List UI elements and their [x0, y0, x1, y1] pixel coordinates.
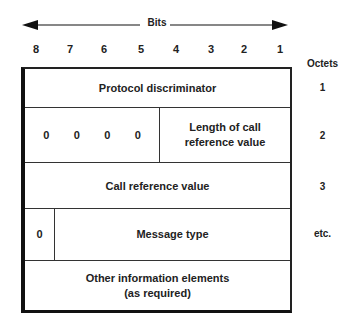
- bit-8-cell: 0: [25, 209, 55, 260]
- bit-7-value: 0: [74, 128, 80, 143]
- call-reference-value-label: Call reference value: [106, 180, 210, 192]
- protocol-discriminator-label: Protocol discriminator: [99, 82, 216, 94]
- bits-label: Bits: [142, 17, 172, 28]
- zero-bits-cell: 0 0 0 0: [25, 108, 160, 162]
- other-elements-line1: Other information elements: [86, 271, 230, 286]
- bit-8-value: 0: [43, 128, 49, 143]
- message-type-cell: Message type: [55, 209, 290, 260]
- bit-6-value: 0: [104, 128, 110, 143]
- bit-number-5: 5: [134, 43, 148, 55]
- length-cell: Length of call reference value: [160, 108, 290, 162]
- bit-number-4: 4: [169, 43, 183, 55]
- octet-1: 1: [300, 82, 345, 93]
- row-protocol-discriminator: Protocol discriminator: [25, 69, 290, 108]
- other-elements-line2: (as required): [124, 286, 191, 301]
- message-type-label: Message type: [136, 227, 208, 242]
- bit-number-2: 2: [237, 43, 251, 55]
- message-format-box: Protocol discriminator 0 0 0 0 Length of…: [21, 67, 292, 313]
- bit-5-value: 0: [135, 128, 141, 143]
- bit-number-6: 6: [97, 43, 111, 55]
- length-label: Length of call reference value: [175, 120, 275, 150]
- bit-number-1: 1: [273, 43, 287, 55]
- row-message-type: 0 Message type: [25, 209, 290, 261]
- row-other-elements: Other information elements (as required): [25, 261, 290, 310]
- bit-number-8: 8: [29, 43, 43, 55]
- row-call-reference-length: 0 0 0 0 Length of call reference value: [25, 108, 290, 163]
- octet-3: 3: [300, 181, 345, 192]
- row-call-reference-value: Call reference value: [25, 163, 290, 209]
- octet-etc: etc.: [300, 228, 345, 239]
- octet-2: 2: [300, 130, 345, 141]
- bit-8-zero: 0: [36, 227, 42, 242]
- bit-number-7: 7: [63, 43, 77, 55]
- bit-number-3: 3: [204, 43, 218, 55]
- octets-label: Octets: [300, 58, 345, 69]
